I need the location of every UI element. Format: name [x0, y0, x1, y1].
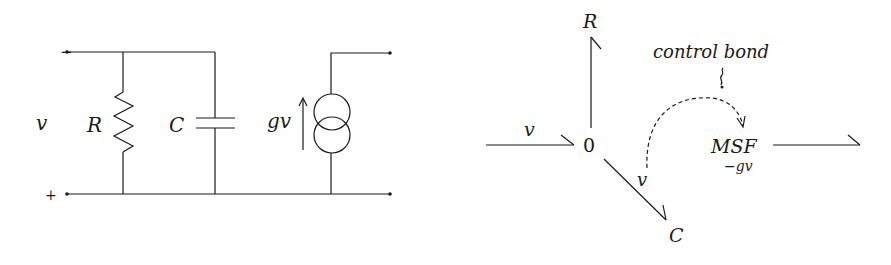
capacitor-label: C: [169, 113, 184, 137]
diagram-svg: − + v R C gv v 0 R C v MSF −gv control b…: [0, 0, 891, 265]
current-direction-arrow-icon: [299, 98, 307, 150]
capacitor-symbol: [196, 52, 235, 194]
capacitor-bond: [604, 159, 666, 220]
output-bond: [773, 135, 860, 145]
bond-capacitor-label: C: [669, 224, 684, 246]
bond-resistor-label: R: [582, 10, 597, 32]
resistor-bond: [591, 37, 601, 128]
circuit-schematic: [67, 52, 390, 194]
diagram-canvas: − + v R C gv v 0 R C v MSF −gv control b…: [0, 0, 891, 265]
terminal-dots: [65, 50, 392, 196]
bond-graph: [486, 37, 860, 220]
junction-zero: 0: [583, 134, 595, 156]
input-effort-label: v: [524, 118, 535, 140]
annotation-pointer: [721, 68, 723, 85]
terminal-minus-label: −: [60, 43, 73, 61]
msf-element-label: MSF: [710, 135, 757, 157]
terminal-plus-label: +: [45, 187, 57, 203]
capacitor-effort-label: v: [637, 169, 647, 190]
resistor-label: R: [86, 113, 102, 137]
msf-modulation-label: −gv: [724, 158, 753, 174]
control-bond-annotation: control bond: [653, 41, 769, 62]
current-source-symbol: [314, 53, 390, 194]
resistor-symbol: [114, 52, 133, 194]
voltage-label: v: [36, 111, 48, 135]
source-label: gv: [267, 109, 292, 133]
annotation-dot: [721, 86, 724, 89]
